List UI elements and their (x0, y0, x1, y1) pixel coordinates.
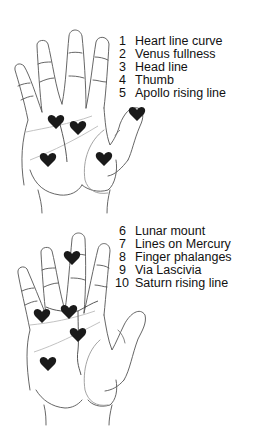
hand-outline-icon (0, 0, 256, 215)
palm-diagram-2: 6Lunar mount 7Lines on Mercury 8Finger p… (0, 215, 256, 431)
legend-1: 1Heart line curve 2Venus fullness 3Head … (115, 35, 226, 100)
palm-diagram-1: 1Heart line curve 2Venus fullness 3Head … (0, 0, 256, 215)
legend-item: 5Apollo rising line (115, 87, 226, 100)
legend-item: 10Saturn rising line (115, 277, 232, 290)
legend-2: 6Lunar mount 7Lines on Mercury 8Finger p… (115, 225, 232, 290)
